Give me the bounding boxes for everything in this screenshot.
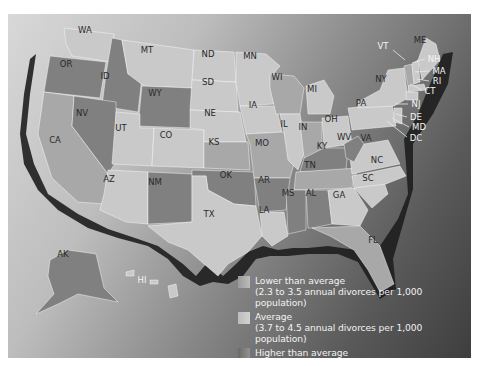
state-label-vt: VT: [377, 41, 389, 51]
state-label-ar: AR: [258, 175, 270, 185]
state-AK: [36, 250, 118, 314]
state-label-nv: NV: [76, 108, 88, 118]
state-label-dc: DC: [410, 133, 423, 143]
state-label-de: DE: [410, 112, 422, 122]
state-label-nc: NC: [371, 155, 383, 165]
state-label-ga: GA: [333, 190, 346, 200]
state-label-ks: KS: [209, 137, 220, 147]
map-frame: WAORCAIDNVMTWYUTCOAZNMNDSDNEKSOKTXMNIAMO…: [8, 14, 471, 358]
state-label-il: IL: [280, 119, 288, 129]
state-label-nj: NJ: [412, 99, 421, 109]
state-label-ok: OK: [220, 170, 233, 180]
state-label-fl: FL: [368, 235, 378, 245]
legend-label-lower: Lower than average: [255, 275, 468, 286]
state-label-wi: WI: [272, 72, 283, 82]
state-label-oh: OH: [324, 114, 337, 124]
state-label-nm: NM: [148, 177, 162, 187]
legend-swatch-average: [238, 312, 250, 324]
state-label-ny: NY: [375, 74, 387, 84]
legend-item-lower: Lower than average (2.3 to 3.5 annual di…: [238, 275, 468, 308]
legend-label-average: Average: [255, 311, 468, 322]
state-label-va: VA: [360, 133, 371, 143]
state-label-md: MD: [412, 122, 426, 132]
state-label-ky: KY: [317, 141, 328, 151]
state-label-or: OR: [60, 59, 73, 69]
state-label-az: AZ: [103, 174, 115, 184]
state-label-co: CO: [160, 130, 173, 140]
legend-swatch-lower: [238, 276, 250, 288]
state-label-al: AL: [306, 188, 317, 198]
state-label-ri: RI: [433, 76, 441, 86]
state-label-me: ME: [414, 35, 427, 45]
legend-item-higher: Higher than average (4.9 to 6.8 annual d…: [238, 347, 468, 358]
state-label-wy: WY: [148, 88, 162, 98]
state-OR: [44, 56, 106, 98]
state-label-ia: IA: [249, 100, 258, 110]
state-label-hi: HI: [138, 275, 147, 285]
legend-swatch-higher: [238, 348, 250, 358]
state-TN: [294, 168, 358, 190]
state-label-ak: AK: [57, 249, 69, 259]
state-label-sd: SD: [202, 77, 214, 87]
state-label-nh: NH: [428, 54, 441, 64]
state-label-in: IN: [299, 122, 308, 132]
state-PA: [348, 104, 396, 130]
state-label-ct: CT: [424, 86, 436, 96]
callout-line-dc: [387, 121, 407, 137]
state-label-pa: PA: [356, 98, 367, 108]
state-label-ms: MS: [282, 188, 295, 198]
state-label-mi: MI: [307, 84, 317, 94]
state-HI-3: [126, 270, 134, 276]
state-label-tn: TN: [303, 160, 316, 170]
state-label-mn: MN: [243, 51, 257, 61]
legend-item-average: Average (3.7 to 4.5 annual divorces per …: [238, 311, 468, 344]
state-label-tx: TX: [202, 209, 214, 219]
legend: Lower than average (2.3 to 3.5 annual di…: [238, 275, 468, 358]
state-label-mt: MT: [141, 45, 154, 55]
state-label-id: ID: [100, 71, 110, 81]
state-label-nd: ND: [202, 49, 215, 59]
state-label-ne: NE: [204, 108, 216, 118]
state-WY: [138, 86, 192, 128]
state-label-la: LA: [259, 205, 270, 215]
state-label-sc: SC: [362, 173, 373, 183]
state-label-wv: WV: [337, 132, 351, 142]
state-HI-2: [150, 280, 158, 284]
state-HI-1: [168, 284, 178, 298]
callout-line-vt: [393, 50, 405, 60]
state-label-wa: WA: [78, 25, 92, 35]
legend-detail-average: (3.7 to 4.5 annual divorces per 1,000 po…: [255, 322, 468, 344]
legend-label-higher: Higher than average: [255, 347, 468, 358]
state-label-ma: MA: [432, 66, 445, 76]
legend-detail-lower: (2.3 to 3.5 annual divorces per 1,000 po…: [255, 286, 468, 308]
state-LA: [260, 212, 288, 246]
state-label-mo: MO: [255, 138, 269, 148]
state-label-ut: UT: [115, 123, 127, 133]
state-label-ca: CA: [49, 135, 61, 145]
